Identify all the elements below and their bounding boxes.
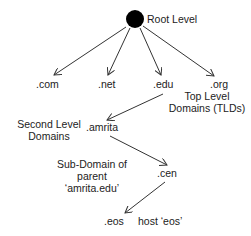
host-eos-label: .eos <box>104 215 124 227</box>
host-annotation: host ‘eos’ <box>138 215 182 227</box>
second-level-annotation: Second Level Domains <box>14 118 84 142</box>
tld-annotation: Top Level Domains (TLDs) <box>168 90 246 114</box>
tld-net-label: .net <box>98 78 116 90</box>
edge-root-edu <box>140 28 161 75</box>
edge-edu-amrita <box>107 94 163 120</box>
tld-annotation-line1: Top Level <box>168 90 246 102</box>
second-level-annotation-line1: Second Level <box>14 118 84 130</box>
root-level-label: Root Level <box>147 13 197 25</box>
sub-domain-cen-label: .cen <box>157 167 177 179</box>
sub-domain-annotation-line3: ‘amrita.edu’ <box>52 182 132 194</box>
tld-edu-label: .edu <box>153 78 173 90</box>
edge-root-com <box>54 27 126 75</box>
second-level-amrita-label: .amrita <box>86 121 118 133</box>
sub-domain-annotation-line2: parent <box>52 170 132 182</box>
sub-domain-annotation: Sub-Domain of parent ‘amrita.edu’ <box>52 158 132 194</box>
tld-org-label: .org <box>210 78 228 90</box>
edge-root-net <box>108 28 130 75</box>
edge-root-org <box>143 26 214 76</box>
sub-domain-annotation-line1: Sub-Domain of <box>52 158 132 170</box>
tld-com-label: .com <box>36 78 59 90</box>
root-node <box>126 10 144 28</box>
tld-annotation-line2: Domains (TLDs) <box>168 102 246 114</box>
second-level-annotation-line2: Domains <box>14 130 84 142</box>
